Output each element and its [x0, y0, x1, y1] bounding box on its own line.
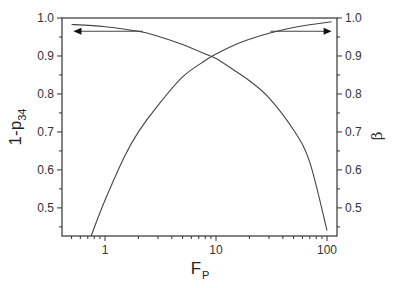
x-axis-title: FP — [191, 259, 210, 281]
left-y-axis-title: 1-p34 — [6, 109, 28, 146]
x-tick-label: 100 — [317, 243, 337, 257]
one-minus-p34-curve — [72, 25, 327, 231]
right-tick-label: 0.6 — [345, 163, 362, 177]
beta-curve — [91, 22, 332, 236]
series-layer — [72, 22, 332, 236]
right-tick-label: 0.7 — [345, 125, 362, 139]
x-tick-label: 10 — [209, 243, 223, 257]
left-tick-label: 1.0 — [37, 11, 54, 25]
left-y-axis: 0.50.60.70.80.91.0 — [37, 11, 62, 227]
left-tick-label: 0.5 — [37, 201, 54, 215]
right-y-axis-title: β — [368, 132, 386, 141]
annotation-arrows — [73, 28, 331, 35]
x-axis: 110100 — [72, 236, 338, 257]
right-tick-label: 0.9 — [345, 49, 362, 63]
left-tick-label: 0.8 — [37, 87, 54, 101]
left-tick-label: 0.7 — [37, 125, 54, 139]
arrow-right-icon — [324, 28, 332, 35]
right-tick-label: 1.0 — [345, 11, 362, 25]
left-tick-label: 0.9 — [37, 49, 54, 63]
right-tick-label: 0.8 — [345, 87, 362, 101]
right-y-axis: 0.50.60.70.80.91.0 — [337, 11, 362, 227]
x-tick-label: 1 — [102, 243, 109, 257]
left-tick-label: 0.6 — [37, 163, 54, 177]
right-tick-label: 0.5 — [345, 201, 362, 215]
arrow-left-icon — [73, 28, 81, 35]
chart: 0.50.60.70.80.91.0 0.50.60.70.80.91.0 11… — [0, 0, 395, 288]
